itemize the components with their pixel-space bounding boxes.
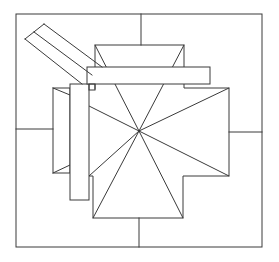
left-panel bbox=[53, 88, 70, 173]
roof-outline-right-bottom bbox=[89, 84, 229, 218]
hip-ridge-4 bbox=[139, 131, 229, 176]
horizontal-beam bbox=[87, 67, 210, 84]
vertical-beam bbox=[70, 84, 89, 200]
left-panel-diagonal-1 bbox=[53, 88, 70, 95]
small-square bbox=[89, 84, 95, 90]
hip-ridge-6 bbox=[93, 131, 139, 218]
roof-plan-diagram bbox=[0, 0, 279, 262]
roof-outline-top bbox=[95, 45, 184, 67]
hip-ridge-8 bbox=[89, 106, 139, 131]
hip-ridge-7 bbox=[89, 131, 139, 176]
hip-ridge-2 bbox=[139, 45, 184, 131]
hip-ridge-3 bbox=[139, 88, 229, 131]
hip-ridge-1 bbox=[95, 45, 139, 131]
hip-ridge-5 bbox=[139, 131, 183, 218]
left-panel-diagonal-2 bbox=[53, 165, 70, 173]
